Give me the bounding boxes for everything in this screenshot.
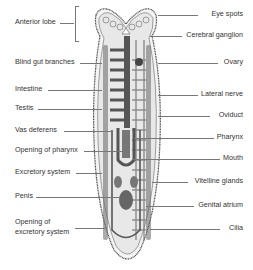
anterior-lobe-bracket — [75, 6, 79, 42]
label-cilia: Cilia — [229, 224, 243, 232]
label-vas-deferens: Vas deferens — [15, 126, 57, 134]
label-testis: Testis — [15, 104, 33, 112]
genital-atrium — [119, 190, 133, 210]
label-eye-spots: Eye spots — [211, 10, 243, 18]
label-opening-of-excretory-system-line1: Opening of — [15, 218, 50, 226]
label-vitelline-glands: Vitelline glands — [195, 177, 243, 185]
label-opening-of-excretory-system-line2: excretory system — [15, 228, 69, 236]
ovary — [135, 58, 143, 66]
label-oviduct: Oviduct — [219, 111, 243, 119]
label-excretory-system: Excretory system — [15, 168, 70, 176]
label-mouth: Mouth — [223, 154, 243, 162]
label-anterior-lobe: Anterior lobe — [15, 18, 56, 26]
label-ovary: Ovary — [224, 58, 243, 66]
label-opening-of-pharynx: Opening of pharynx — [15, 146, 78, 154]
intestine — [124, 36, 130, 128]
label-lateral-nerve: Lateral nerve — [201, 90, 243, 98]
label-genital-atrium: Genital atrium — [198, 201, 243, 209]
label-intestine: Intestine — [15, 85, 42, 93]
label-penis: Penis — [15, 192, 33, 200]
label-pharynx: Pharynx — [217, 133, 243, 141]
label-blind-gut-branches: Blind gut branches — [15, 58, 75, 66]
label-cerebral-ganglion: Cerebral ganglion — [186, 31, 243, 39]
